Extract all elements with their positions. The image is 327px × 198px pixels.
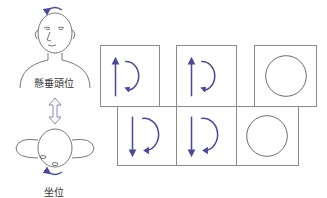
up-arrow-ccw-rotation-icon — [177, 46, 236, 106]
nystagmus-box-bottom-2 — [176, 106, 237, 166]
empty-circle-icon — [255, 46, 316, 106]
nystagmus-box-top-3 — [254, 45, 317, 107]
down-arrow-cw-rotation-icon — [118, 107, 176, 165]
rotation-arrow-icon — [48, 8, 62, 11]
position-label-hanging: 懸垂頭位 — [29, 75, 79, 90]
head-topview-icon — [16, 129, 94, 167]
nystagmus-box-bottom-1 — [117, 106, 177, 166]
up-arrow-ccw-rotation-icon — [101, 46, 159, 106]
down-arrow-cw-rotation-icon — [177, 107, 236, 165]
nystagmus-box-bottom-3 — [236, 106, 299, 166]
rotation-arrow-icon — [48, 172, 62, 175]
head-position-figure — [0, 0, 100, 198]
nystagmus-box-top-2 — [176, 45, 237, 107]
nystagmus-box-top-1 — [100, 45, 160, 107]
double-arrow-icon — [49, 98, 61, 124]
empty-circle-icon — [237, 107, 298, 165]
position-label-sitting: 坐位 — [34, 184, 74, 198]
